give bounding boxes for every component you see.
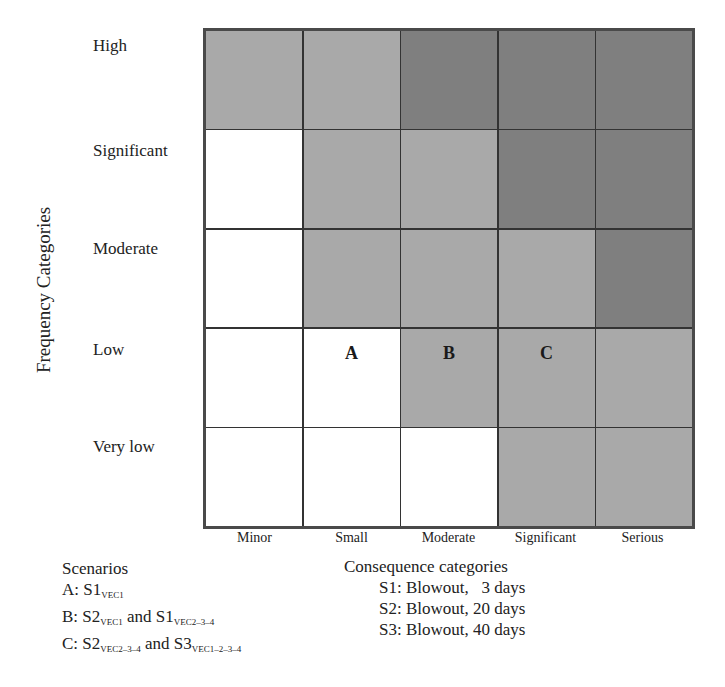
row-label-very-low: Very low [93, 437, 155, 457]
scenario-marker: A [304, 343, 400, 364]
matrix-cell [206, 230, 302, 328]
matrix-cell [596, 230, 692, 328]
matrix-cell [596, 130, 692, 228]
matrix-cell [401, 130, 497, 228]
consequence-title: Consequence categories [344, 556, 525, 577]
matrix-cell [401, 31, 497, 129]
scenario-c-text: C: S2 [62, 634, 100, 653]
scenario-marker: C [499, 343, 595, 364]
scenario-a-sub: VEC1 [101, 590, 124, 600]
col-label-serious: Serious [594, 530, 691, 546]
matrix-cell [596, 31, 692, 129]
scenario-c-sub1: VEC2–3–4 [100, 644, 141, 654]
matrix-cell: A [304, 329, 400, 427]
consequence-s2: S2: Blowout, 20 days [344, 598, 525, 619]
col-label-significant: Significant [497, 530, 594, 546]
matrix-cell [206, 130, 302, 228]
matrix-cell [304, 428, 400, 526]
matrix-cell: B [401, 329, 497, 427]
scenarios-title: Scenarios [62, 558, 241, 579]
row-label-significant: Significant [93, 141, 168, 161]
risk-matrix: ABC [203, 28, 695, 529]
matrix-cell [499, 31, 595, 129]
row-label-moderate: Moderate [93, 239, 158, 259]
matrix-cell: C [499, 329, 595, 427]
scenario-a: A: S1VEC1 [62, 579, 241, 606]
col-label-small: Small [303, 530, 400, 546]
scenario-b-sub1: VEC1 [100, 617, 123, 627]
scenario-b: B: S2VEC1 and S1VEC2–3–4 [62, 606, 241, 633]
scenario-marker: B [401, 343, 497, 364]
matrix-cell [401, 428, 497, 526]
scenario-c-sub2: VEC1–2–3–4 [192, 644, 242, 654]
consequence-legend: Consequence categories S1: Blowout, 3 da… [344, 556, 525, 640]
consequence-s3: S3: Blowout, 40 days [344, 619, 525, 640]
row-label-high: High [93, 36, 127, 56]
scenario-b-sub2: VEC2–3–4 [174, 617, 215, 627]
row-label-low: Low [93, 340, 124, 360]
matrix-cell [401, 230, 497, 328]
scenario-c-mid: and S3 [141, 634, 192, 653]
scenario-b-text: B: S2 [62, 607, 100, 626]
scenario-c: C: S2VEC2–3–4 and S3VEC1–2–3–4 [62, 633, 241, 660]
consequence-s1: S1: Blowout, 3 days [344, 577, 525, 598]
col-label-moderate: Moderate [400, 530, 497, 546]
matrix-cell [499, 428, 595, 526]
scenarios-legend: Scenarios A: S1VEC1 B: S2VEC1 and S1VEC2… [62, 558, 241, 660]
y-axis-title: Frequency Categories [33, 160, 63, 420]
matrix-cell [304, 230, 400, 328]
matrix-cell [206, 329, 302, 427]
col-label-minor: Minor [206, 530, 303, 546]
matrix-cell [304, 31, 400, 129]
matrix-cell [206, 428, 302, 526]
matrix-cell [304, 130, 400, 228]
scenario-b-mid: and S1 [123, 607, 174, 626]
matrix-cell [499, 130, 595, 228]
scenario-a-text: A: S1 [62, 580, 101, 599]
matrix-cell [206, 31, 302, 129]
matrix-cell [596, 428, 692, 526]
matrix-cell [596, 329, 692, 427]
matrix-cell [499, 230, 595, 328]
